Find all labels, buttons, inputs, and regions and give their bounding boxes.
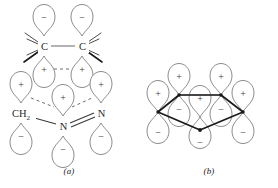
lobe-n-right-top: + xyxy=(90,72,112,104)
sign-ch2-top: + xyxy=(18,79,24,90)
lobe-b1-top: + xyxy=(168,64,190,96)
sign-b4-top: + xyxy=(155,88,161,99)
hash-marks-c-left xyxy=(24,33,38,62)
bond-ncenter-nright-2 xyxy=(71,117,95,127)
sign-c-right-bottom: + xyxy=(79,64,85,75)
caption-panel-b: (b) xyxy=(189,166,229,176)
lobe-b4-bottom: − xyxy=(147,112,169,144)
lobe-b3-top: + xyxy=(189,86,211,118)
atom-label-n-right: N xyxy=(95,106,108,120)
sign-n-right-top: + xyxy=(98,79,104,90)
sign-n-center-top: + xyxy=(60,92,66,103)
panel-a: − − + + xyxy=(8,5,112,168)
sign-b5-bottom: − xyxy=(240,127,246,138)
lobe-b2-top: + xyxy=(210,64,232,96)
sign-b4-bottom: − xyxy=(155,127,161,138)
svg-text:C: C xyxy=(41,41,48,52)
atom-label-c-right: C xyxy=(76,39,89,53)
lobe-n-center-top: + xyxy=(52,85,74,117)
sign-b3-bottom: − xyxy=(197,137,203,148)
atom-label-c-left: C xyxy=(38,39,51,53)
figure-canvas: − − + + xyxy=(0,0,278,188)
lobe-b3-bottom: − xyxy=(189,117,211,149)
lobe-ch2-top: + xyxy=(10,72,32,104)
lobe-b5-bottom: − xyxy=(232,112,254,144)
lobe-c-left-top: − xyxy=(33,5,55,37)
atom-label-n-center: N xyxy=(57,119,70,133)
lobe-b5-top: + xyxy=(232,81,254,113)
sign-b1-top: + xyxy=(176,71,182,82)
lobe-n-center-bottom: − xyxy=(52,136,74,168)
atom-label-ch2: CH2 xyxy=(8,106,36,122)
hash-marks-c-right xyxy=(88,33,102,62)
lobe-c-left-bottom: + xyxy=(33,56,55,88)
sign-ch2-bottom: − xyxy=(18,131,24,142)
sign-c-left-bottom: + xyxy=(41,64,47,75)
svg-text:N: N xyxy=(98,108,106,119)
lobe-b4-top: + xyxy=(147,81,169,113)
sign-b2-bottom: − xyxy=(218,104,224,115)
overlap-dash-ch2-n xyxy=(31,98,54,107)
sign-c-right-top: − xyxy=(79,12,85,23)
sign-c-left-top: − xyxy=(41,12,47,23)
orbital-overlap-figure: − − + + xyxy=(0,0,278,188)
svg-text:N: N xyxy=(60,121,68,132)
lobe-ch2-bottom: − xyxy=(10,123,32,155)
lobe-n-right-bottom: − xyxy=(90,123,112,155)
lobe-c-right-top: − xyxy=(71,5,93,37)
sign-b1-bottom: − xyxy=(176,104,182,115)
bond-ncenter-nright-1 xyxy=(70,113,94,123)
caption-panel-a: (a) xyxy=(49,166,89,176)
svg-text:C: C xyxy=(79,41,86,52)
sign-b5-top: + xyxy=(240,88,246,99)
overlap-dash-n-n xyxy=(72,98,92,107)
sign-n-center-bottom: − xyxy=(60,144,66,155)
sign-n-right-bottom: − xyxy=(98,131,104,142)
panel-b: + + + + + − xyxy=(147,64,254,149)
sign-b2-top: + xyxy=(218,71,224,82)
